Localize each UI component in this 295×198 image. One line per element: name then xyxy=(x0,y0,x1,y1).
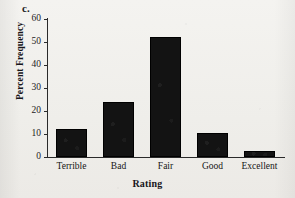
x-axis-category-label: Fair xyxy=(142,161,189,171)
bar-fill xyxy=(151,38,180,156)
bar xyxy=(197,133,228,157)
y-axis-tick-label: 20 xyxy=(32,105,42,115)
bar-fill xyxy=(57,130,86,156)
y-axis-tick-label: 50 xyxy=(32,36,42,46)
bar xyxy=(150,37,181,157)
x-axis-category-label: Terrible xyxy=(48,161,95,171)
y-axis-tick-label: 0 xyxy=(36,151,41,161)
bar xyxy=(103,102,134,157)
y-axis-title: Percent Frequency xyxy=(15,6,25,116)
x-axis-category-label: Bad xyxy=(95,161,142,171)
y-axis-tick-label: 40 xyxy=(32,59,42,69)
y-axis-tick-label: 10 xyxy=(32,128,42,138)
bar-fill xyxy=(198,134,227,156)
y-axis-tick-mark xyxy=(44,157,48,158)
x-axis-title: Rating xyxy=(0,178,295,189)
figure-panel: c. Percent Frequency 0102030405060 Ratin… xyxy=(0,0,295,198)
x-axis-category-label: Excellent xyxy=(236,161,283,171)
plot-area xyxy=(48,19,283,157)
y-axis-tick-label: 60 xyxy=(32,13,42,23)
bar-fill xyxy=(104,103,133,156)
bar xyxy=(244,151,275,157)
bar xyxy=(56,129,87,157)
x-axis-category-label: Good xyxy=(189,161,236,171)
bar-fill xyxy=(245,152,274,156)
y-axis-tick-label: 30 xyxy=(32,82,42,92)
